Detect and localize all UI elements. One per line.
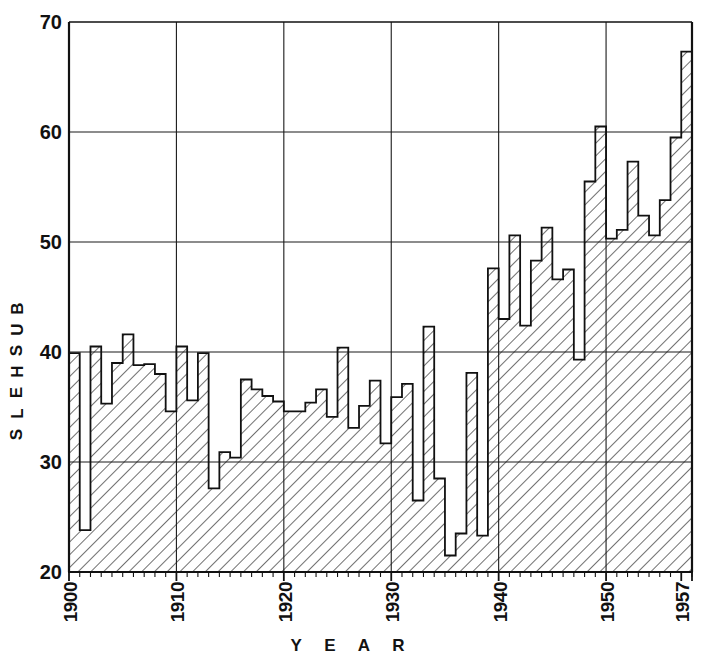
data-series-bushels (69, 52, 692, 572)
x-axis-title: Y E A R (0, 636, 704, 656)
axis-tick-marks (69, 572, 692, 581)
chart-plot-area (0, 0, 704, 667)
x-axis-tick-label: 1920 (275, 582, 297, 622)
y-axis-tick-label: 20 (16, 562, 62, 582)
y-axis-tick-label: 40 (16, 342, 62, 362)
x-axis-tick-label: 1940 (490, 582, 512, 622)
x-axis-tick-label: 1910 (167, 582, 189, 622)
y-axis-tick-label: 60 (16, 122, 62, 142)
x-axis-tick-label: 1900 (60, 582, 82, 622)
x-axis-tick-label: 1950 (597, 582, 619, 622)
y-axis-tick-label: 30 (16, 452, 62, 472)
chart-container: B U S H E L S 203040506070 1900191019201… (0, 0, 704, 667)
x-axis-tick-label: 1957 (672, 582, 694, 622)
series-fill (69, 52, 692, 572)
y-axis-tick-label: 50 (16, 232, 62, 252)
y-axis-tick-labels: 203040506070 (0, 0, 62, 667)
y-axis-tick-label: 70 (16, 12, 62, 32)
x-axis-tick-label: 1930 (382, 582, 404, 622)
